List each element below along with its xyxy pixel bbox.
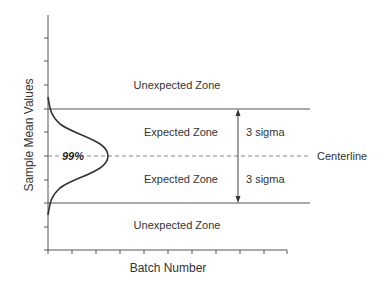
- centerline-label: Centerline: [317, 150, 367, 162]
- arrow-down-icon: [236, 196, 241, 203]
- y-axis-ticks: [44, 38, 48, 227]
- x-axis-label: Batch Number: [130, 261, 207, 275]
- lower-unexpected-zone-label: Unexpected Zone: [134, 219, 221, 231]
- distribution-percent-label: 99%: [62, 150, 84, 162]
- upper-expected-zone-label: Expected Zone: [144, 126, 218, 138]
- upper-unexpected-zone-label: Unexpected Zone: [134, 79, 221, 91]
- lower-expected-zone-label: Expected Zone: [144, 173, 218, 185]
- arrow-up-icon: [236, 109, 241, 116]
- control-chart-diagram: Sample Mean Values Batch Number Unexpect…: [0, 0, 387, 286]
- x-axis-ticks: [48, 250, 287, 254]
- upper-sigma-label: 3 sigma: [246, 126, 285, 138]
- y-axis-label: Sample Mean Values: [22, 78, 36, 191]
- lower-sigma-label: 3 sigma: [246, 173, 285, 185]
